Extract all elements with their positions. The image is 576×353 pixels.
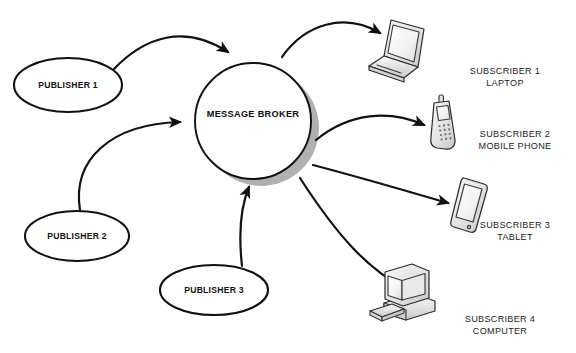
arrow-broker-to-subscriber-3 [313,165,448,203]
subscriber-3-node[interactable]: SUBSCRIBER 3 TABLET [451,178,551,242]
publisher-3-node[interactable]: PUBLISHER 3 [160,265,268,315]
subscriber-1-node[interactable]: SUBSCRIBER 1 LAPTOP [369,20,540,88]
arrow-publisher-2-to-broker [79,122,180,210]
arrow-publisher-1-to-broker [113,36,228,70]
subscriber-4-node[interactable]: SUBSCRIBER 4 COMPUTER [370,264,535,336]
subscriber-4-label-line2: COMPUTER [473,326,528,336]
arrow-broker-to-subscriber-1 [282,23,380,57]
subscriber-2-label-line1: SUBSCRIBER 2 [480,129,550,139]
subscriber-1-label-line2: LAPTOP [486,78,524,88]
subscriber-2-node[interactable]: SUBSCRIBER 2 MOBILE PHONE [431,95,552,151]
publisher-2-node[interactable]: PUBLISHER 2 [25,211,129,261]
subscriber-3-label-line1: SUBSCRIBER 3 [480,220,550,230]
subscriber-2-label-line2: MOBILE PHONE [479,141,552,151]
publisher-1-node[interactable]: PUBLISHER 1 [14,58,122,112]
arrow-publisher-3-to-broker [240,187,249,266]
publisher-2-label: PUBLISHER 2 [47,231,107,241]
arrow-broker-to-subscriber-2 [316,116,424,140]
subscriber-1-label-line1: SUBSCRIBER 1 [470,66,540,76]
laptop-icon [369,20,424,82]
mobile-phone-icon [431,95,455,149]
publisher-1-label: PUBLISHER 1 [38,80,98,90]
publisher-3-label: PUBLISHER 3 [184,285,244,295]
subscriber-4-label-line1: SUBSCRIBER 4 [465,314,535,324]
publish-subscribe-diagram: MESSAGE BROKER PUBLISHER 1 PUBLISHER 2 P… [0,0,576,353]
diagram-canvas: MESSAGE BROKER PUBLISHER 1 PUBLISHER 2 P… [0,0,576,353]
subscriber-3-label-line2: TABLET [497,232,533,242]
message-broker-label: MESSAGE BROKER [207,109,300,119]
message-broker-node[interactable]: MESSAGE BROKER [195,63,311,179]
